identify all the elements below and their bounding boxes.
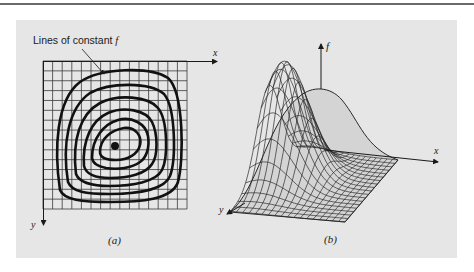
annotation-variable: f bbox=[115, 35, 120, 46]
panel-a: x y Lines of constant f (a) bbox=[30, 34, 218, 247]
figure-canvas: x y Lines of constant f (a) f x bbox=[0, 0, 474, 272]
caption-a: (a) bbox=[108, 234, 121, 247]
y-axis-label-a: y bbox=[30, 219, 36, 230]
annotation-text: Lines of constant bbox=[33, 34, 115, 46]
panel-b: f x y (b) bbox=[218, 40, 439, 246]
y-axis-label-b: y bbox=[218, 204, 224, 215]
center-point-marker bbox=[111, 142, 119, 150]
x-axis-label-b: x bbox=[433, 145, 439, 156]
f-axis-label: f bbox=[326, 40, 331, 52]
x-axis-label-a: x bbox=[212, 47, 218, 58]
caption-b: (b) bbox=[324, 233, 337, 246]
contour-annotation: Lines of constant f bbox=[33, 34, 120, 46]
